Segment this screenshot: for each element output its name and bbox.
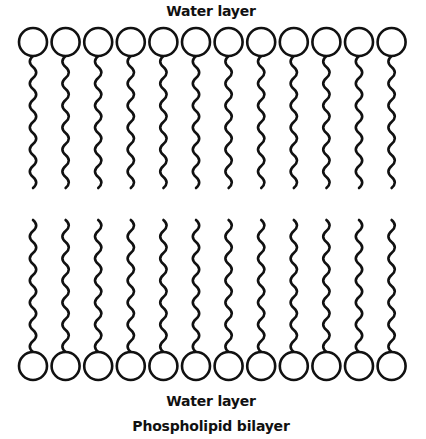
- hydrophilic-head: [182, 28, 210, 56]
- phospholipid-molecule: [149, 28, 177, 188]
- hydrophobic-tail: [62, 220, 68, 352]
- hydrophilic-head: [215, 352, 243, 380]
- hydrophilic-head: [84, 28, 112, 56]
- hydrophilic-head: [52, 28, 80, 56]
- phospholipid-molecule: [182, 220, 210, 380]
- hydrophilic-head: [312, 28, 340, 56]
- hydrophobic-tail: [95, 220, 101, 352]
- hydrophobic-tail: [95, 56, 101, 188]
- hydrophilic-head: [378, 352, 406, 380]
- phospholipid-molecule: [19, 220, 47, 380]
- hydrophilic-head: [149, 352, 177, 380]
- outer-leaflet: [19, 28, 406, 188]
- phospholipid-molecule: [280, 220, 308, 380]
- hydrophilic-head: [117, 352, 145, 380]
- phospholipid-molecule: [84, 28, 112, 188]
- phospholipid-molecule: [247, 28, 275, 188]
- hydrophilic-head: [378, 28, 406, 56]
- phospholipid-molecule: [312, 220, 340, 380]
- phospholipid-molecule: [149, 220, 177, 380]
- bilayer-diagram: [0, 0, 426, 439]
- hydrophilic-head: [345, 352, 373, 380]
- phospholipid-molecule: [84, 220, 112, 380]
- hydrophilic-head: [84, 352, 112, 380]
- hydrophobic-tail: [225, 56, 231, 188]
- hydrophobic-tail: [30, 56, 36, 188]
- hydrophilic-head: [52, 352, 80, 380]
- diagram-caption: Phospholipid bilayer: [0, 417, 424, 435]
- phospholipid-molecule: [215, 28, 243, 188]
- hydrophilic-head: [149, 28, 177, 56]
- phospholipid-molecule: [117, 28, 145, 188]
- hydrophilic-head: [280, 28, 308, 56]
- phospholipid-molecule: [378, 28, 406, 188]
- hydrophilic-head: [312, 352, 340, 380]
- hydrophobic-tail: [128, 220, 134, 352]
- hydrophilic-head: [215, 28, 243, 56]
- phospholipid-molecule: [345, 220, 373, 380]
- hydrophilic-head: [117, 28, 145, 56]
- hydrophilic-head: [19, 28, 47, 56]
- hydrophobic-tail: [225, 220, 231, 352]
- phospholipid-molecule: [19, 28, 47, 188]
- hydrophilic-head: [280, 352, 308, 380]
- hydrophilic-head: [182, 352, 210, 380]
- hydrophilic-head: [19, 352, 47, 380]
- hydrophobic-tail: [291, 220, 297, 352]
- hydrophilic-head: [247, 352, 275, 380]
- hydrophobic-tail: [291, 56, 297, 188]
- phospholipid-molecule: [312, 28, 340, 188]
- hydrophilic-head: [345, 28, 373, 56]
- phospholipid-molecule: [182, 28, 210, 188]
- inner-leaflet: [19, 220, 406, 380]
- hydrophobic-tail: [160, 220, 166, 352]
- hydrophobic-tail: [160, 56, 166, 188]
- hydrophobic-tail: [323, 220, 329, 352]
- hydrophobic-tail: [323, 56, 329, 188]
- bottom-water-layer-label: Water layer: [0, 392, 424, 410]
- phospholipid-molecule: [52, 220, 80, 380]
- hydrophobic-tail: [258, 220, 264, 352]
- hydrophobic-tail: [388, 56, 394, 188]
- hydrophilic-head: [247, 28, 275, 56]
- hydrophobic-tail: [258, 56, 264, 188]
- hydrophobic-tail: [128, 56, 134, 188]
- phospholipid-molecule: [280, 28, 308, 188]
- hydrophobic-tail: [388, 220, 394, 352]
- phospholipid-molecule: [215, 220, 243, 380]
- hydrophobic-tail: [356, 56, 362, 188]
- phospholipid-molecule: [247, 220, 275, 380]
- hydrophobic-tail: [356, 220, 362, 352]
- phospholipid-molecule: [345, 28, 373, 188]
- phospholipid-molecule: [117, 220, 145, 380]
- phospholipid-molecule: [52, 28, 80, 188]
- hydrophobic-tail: [62, 56, 68, 188]
- hydrophobic-tail: [193, 56, 199, 188]
- hydrophobic-tail: [30, 220, 36, 352]
- hydrophobic-tail: [193, 220, 199, 352]
- phospholipid-molecule: [378, 220, 406, 380]
